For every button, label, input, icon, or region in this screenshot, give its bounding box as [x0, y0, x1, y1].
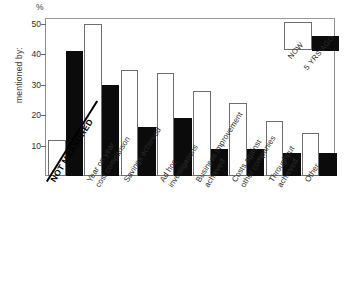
legend: NOW 5 YRS AGO [284, 22, 358, 112]
bar-chart: mentioned by: % 1020304050 NOT MEASUREDY… [0, 0, 358, 291]
x-axis-label-line: Savings achieved [122, 126, 163, 184]
x-axis-label: Savings achieved [122, 126, 163, 184]
x-axis-label-line: Other [303, 162, 322, 184]
x-axis-label: Throughputachieved [267, 144, 305, 189]
x-axis-label: Other [303, 162, 322, 184]
x-axis-label: Ad hocinvestigations [158, 138, 200, 189]
